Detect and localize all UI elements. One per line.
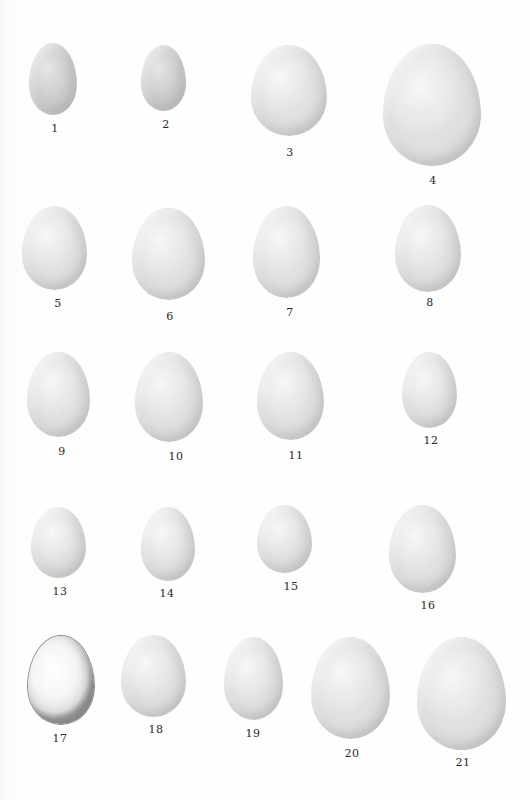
- egg-number-label: 13: [53, 585, 68, 598]
- egg-illustration: [402, 352, 457, 428]
- egg-illustration: [28, 636, 94, 724]
- egg-illustration: [257, 505, 312, 573]
- egg-illustration: [224, 637, 283, 720]
- egg-illustration: [257, 352, 324, 440]
- egg-number-label: 12: [424, 434, 439, 447]
- egg-number-label: 2: [162, 118, 170, 131]
- egg-illustration: [141, 45, 186, 111]
- egg-illustration: [31, 507, 86, 578]
- egg-number-label: 8: [426, 296, 434, 309]
- egg-illustration: [395, 205, 461, 292]
- egg-number-label: 1: [51, 122, 59, 135]
- egg-number-label: 10: [169, 450, 184, 463]
- egg-illustration: [383, 44, 481, 166]
- egg-illustration: [389, 505, 456, 593]
- egg-number-label: 3: [286, 146, 294, 159]
- egg-number-label: 7: [286, 306, 294, 319]
- egg-illustration: [22, 206, 87, 290]
- egg-illustration: [135, 352, 203, 442]
- egg-number-label: 6: [166, 310, 174, 323]
- egg-number-label: 14: [160, 587, 175, 600]
- egg-number-label: 21: [456, 756, 471, 769]
- egg-illustration: [132, 208, 205, 300]
- egg-number-label: 9: [58, 445, 66, 458]
- egg-illustration: [311, 637, 390, 739]
- egg-number-label: 17: [53, 732, 68, 745]
- egg-number-label: 4: [429, 174, 437, 187]
- egg-illustration: [253, 206, 320, 298]
- egg-number-label: 16: [421, 599, 436, 612]
- egg-illustration: [417, 637, 506, 750]
- egg-plate: 123456789101112131415161718192021: [0, 0, 530, 800]
- egg-illustration: [27, 352, 90, 437]
- egg-illustration: [121, 635, 186, 717]
- egg-number-label: 19: [246, 727, 261, 740]
- egg-number-label: 5: [54, 297, 62, 310]
- egg-illustration: [251, 45, 327, 136]
- egg-number-label: 18: [149, 723, 164, 736]
- egg-number-label: 20: [345, 747, 360, 760]
- egg-number-label: 15: [284, 580, 299, 593]
- egg-illustration: [29, 43, 77, 115]
- egg-number-label: 11: [289, 449, 304, 462]
- egg-illustration: [141, 507, 195, 581]
